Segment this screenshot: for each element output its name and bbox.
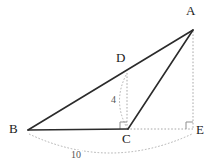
vertex-label-B: B	[9, 122, 18, 135]
measure-label-height: 4	[110, 95, 117, 105]
segment-C-A	[128, 30, 193, 129]
vertex-label-D: D	[116, 51, 125, 64]
measure-label-base: 10	[70, 150, 82, 160]
geometry-canvas	[0, 0, 217, 168]
segment-B-A	[28, 30, 193, 130]
segment-B-C	[28, 129, 128, 130]
vertex-label-C: C	[122, 132, 131, 145]
solid-triangle-edges	[28, 30, 193, 130]
vertex-label-E: E	[196, 123, 204, 136]
vertex-label-A: A	[186, 4, 195, 17]
geometry-figure: A B C D E 4 10	[0, 0, 217, 168]
measure-height-4-arc	[120, 75, 127, 126]
right-angle-at-E	[186, 122, 193, 129]
measure-base-10-arc	[29, 134, 192, 153]
